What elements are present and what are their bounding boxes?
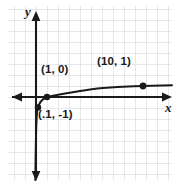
logarithmic-function-graph: (1, 0) (.1, -1) (10, 1) y x: [0, 0, 180, 195]
x-axis-label: x: [165, 100, 172, 116]
point-label-1-0: (1, 0): [41, 63, 68, 75]
y-axis-label: y: [25, 4, 31, 20]
point-label-10-1: (10, 1): [97, 55, 131, 67]
plot-canvas: [0, 0, 180, 195]
data-point-10-1: [140, 83, 147, 90]
grid-background: [8, 6, 172, 180]
data-point-1-0: [44, 94, 50, 100]
point-label-point1-neg1: (.1, -1): [38, 108, 73, 120]
